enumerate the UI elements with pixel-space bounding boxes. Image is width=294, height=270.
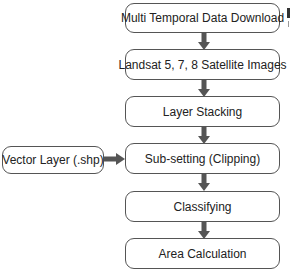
vector-layer-input: Vector Layer (.shp) — [2, 146, 104, 174]
step-label: Classifying — [173, 200, 231, 214]
down-arrow-icon — [198, 222, 210, 239]
cropped-edge-mark — [288, 21, 289, 27]
step-multi-temporal-data-download: Multi Temporal Data Download — [125, 3, 280, 33]
down-arrow-icon — [198, 174, 210, 191]
step-layer-stacking: Layer Stacking — [125, 96, 280, 127]
down-arrow-icon — [198, 33, 210, 50]
step-label: Multi Temporal Data Download — [121, 11, 284, 25]
down-arrow-icon — [198, 80, 210, 97]
input-label: Vector Layer (.shp) — [2, 153, 103, 167]
step-area-calculation: Area Calculation — [125, 238, 280, 269]
step-label: Sub-setting (Clipping) — [145, 152, 260, 166]
step-classifying: Classifying — [125, 191, 280, 222]
step-sub-setting-clipping: Sub-setting (Clipping) — [125, 143, 280, 174]
cropped-edge-mark — [287, 8, 290, 18]
step-label: Landsat 5, 7, 8 Satellite Images — [118, 58, 286, 72]
right-arrow-icon — [104, 153, 126, 165]
step-label: Layer Stacking — [163, 105, 242, 119]
down-arrow-icon — [198, 127, 210, 144]
step-label: Area Calculation — [158, 247, 246, 261]
step-landsat-satellite-images: Landsat 5, 7, 8 Satellite Images — [125, 49, 280, 80]
